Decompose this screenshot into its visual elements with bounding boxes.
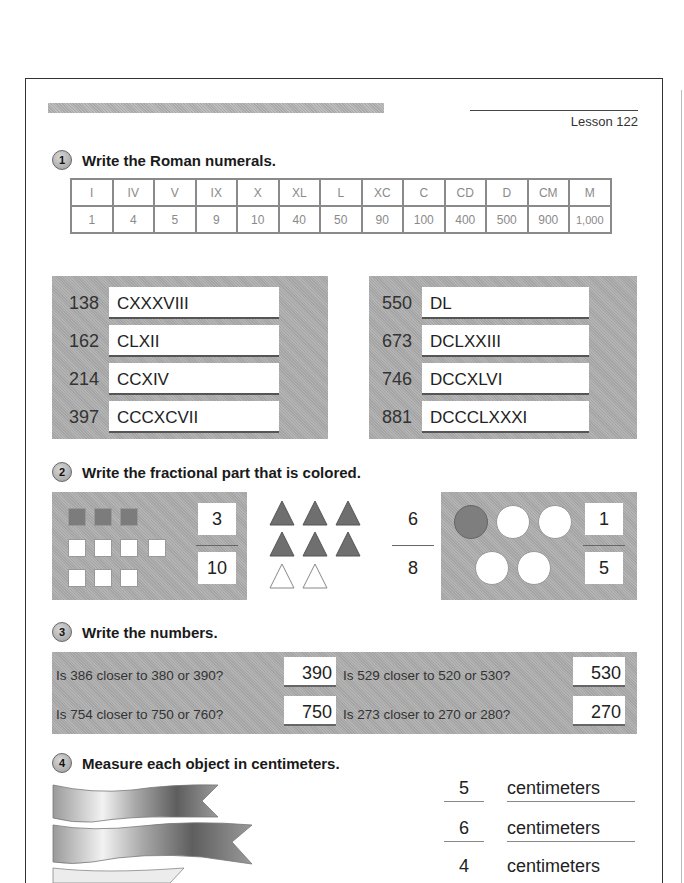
numeral-cell: C bbox=[403, 179, 445, 206]
empty-circle-icon bbox=[496, 505, 530, 539]
unit-label: centimeters bbox=[507, 778, 635, 802]
rounding-question: Is 529 closer to 520 or 530? bbox=[343, 668, 510, 683]
rounding-answer-field[interactable]: 390 bbox=[284, 657, 336, 687]
roman-number: 746 bbox=[370, 369, 422, 390]
roman-row: 214 CCXIV bbox=[57, 363, 279, 395]
filled-triangle-icon bbox=[336, 532, 360, 556]
empty-circle-icon bbox=[538, 505, 572, 539]
roman-answer-field[interactable]: DCLXXIII bbox=[422, 325, 589, 357]
value-cell: 50 bbox=[320, 206, 362, 233]
section-1-title: Write the Roman numerals. bbox=[82, 152, 276, 169]
filled-triangle-icon bbox=[270, 501, 294, 525]
empty-square-icon bbox=[120, 539, 138, 557]
roman-number: 214 bbox=[57, 369, 109, 390]
empty-square-icon bbox=[94, 539, 112, 557]
value-cell: 1,000 bbox=[569, 206, 611, 233]
filled-square-icon bbox=[68, 508, 86, 526]
rounding-answer-field[interactable]: 270 bbox=[573, 696, 625, 726]
title-bar bbox=[48, 103, 384, 113]
numerator-field[interactable]: 1 bbox=[585, 503, 623, 535]
roman-answer-field[interactable]: CCCXCVII bbox=[109, 401, 279, 433]
ribbon-3 bbox=[53, 868, 184, 883]
number-2-icon: 2 bbox=[52, 462, 72, 482]
roman-answer-field[interactable]: DCCXLVI bbox=[422, 363, 589, 395]
roman-row: 162 CLXII bbox=[57, 325, 279, 357]
roman-answer-field[interactable]: CCXIV bbox=[109, 363, 279, 395]
numeral-cell: L bbox=[320, 179, 362, 206]
empty-square-icon bbox=[148, 539, 166, 557]
value-cell: 9 bbox=[196, 206, 238, 233]
measurement-field[interactable]: 6 bbox=[444, 818, 484, 842]
ribbon-2 bbox=[53, 823, 252, 864]
fraction-bar bbox=[196, 545, 238, 546]
roman-row: 881 DCCCLXXXI bbox=[370, 401, 589, 433]
roman-answer-field[interactable]: CLXII bbox=[109, 325, 279, 357]
roman-row: 550 DL bbox=[370, 287, 589, 319]
roman-number: 138 bbox=[57, 293, 109, 314]
section-2-header: 2 Write the fractional part that is colo… bbox=[52, 462, 361, 482]
empty-circle-icon bbox=[475, 551, 509, 585]
numeral-cell: M bbox=[569, 179, 611, 206]
roman-answer-field[interactable]: CXXXVIII bbox=[109, 287, 279, 319]
filled-circle-icon bbox=[454, 505, 488, 539]
roman-answer-field[interactable]: DCCCLXXXI bbox=[422, 401, 589, 433]
filled-triangle-icon bbox=[336, 501, 360, 525]
number-1-icon: 1 bbox=[52, 150, 72, 170]
numerator-field[interactable]: 3 bbox=[198, 503, 236, 535]
roman-row: 397 CCCXCVII bbox=[57, 401, 279, 433]
filled-square-icon bbox=[94, 508, 112, 526]
value-cell: 900 bbox=[528, 206, 570, 233]
empty-square-icon bbox=[120, 569, 138, 587]
name-line bbox=[470, 110, 638, 111]
value-cell: 5 bbox=[154, 206, 196, 233]
denominator-field[interactable]: 8 bbox=[394, 552, 432, 584]
ribbon-1 bbox=[53, 785, 218, 822]
empty-square-icon bbox=[68, 539, 86, 557]
roman-number: 881 bbox=[370, 407, 422, 428]
unit-label: centimeters bbox=[507, 818, 635, 842]
filled-triangle-icon bbox=[303, 532, 327, 556]
numeral-cell: XC bbox=[362, 179, 404, 206]
roman-answer-field[interactable]: DL bbox=[422, 287, 589, 319]
roman-reference-table: I IV V IX X XL L XC C CD D CM M 1 4 5 9 … bbox=[70, 178, 612, 234]
rounding-answer-field[interactable]: 530 bbox=[573, 657, 625, 687]
empty-triangle-icon bbox=[270, 564, 294, 588]
section-2-title: Write the fractional part that is colore… bbox=[82, 464, 361, 481]
lesson-label: Lesson 122 bbox=[571, 114, 638, 129]
fraction-bar bbox=[392, 545, 434, 546]
value-cell: 100 bbox=[403, 206, 445, 233]
numerator-field[interactable]: 6 bbox=[394, 503, 432, 535]
numeral-cell: IX bbox=[196, 179, 238, 206]
value-cell: 90 bbox=[362, 206, 404, 233]
section-1-header: 1 Write the Roman numerals. bbox=[52, 150, 276, 170]
measurement-field[interactable]: 5 bbox=[444, 778, 484, 802]
empty-circle-icon bbox=[517, 551, 551, 585]
fraction-bar bbox=[583, 545, 625, 546]
value-cell: 400 bbox=[445, 206, 487, 233]
measurement-field[interactable]: 4 bbox=[444, 856, 484, 879]
triangles-figure bbox=[268, 498, 368, 598]
roman-row: 673 DCLXXIII bbox=[370, 325, 589, 357]
section-3-title: Write the numbers. bbox=[82, 624, 218, 641]
roman-number: 550 bbox=[370, 293, 422, 314]
rounding-answer-field[interactable]: 750 bbox=[284, 696, 336, 726]
numeral-cell: D bbox=[486, 179, 528, 206]
numeral-cell: XL bbox=[279, 179, 321, 206]
empty-square-icon bbox=[68, 569, 86, 587]
roman-number: 673 bbox=[370, 331, 422, 352]
roman-number: 397 bbox=[57, 407, 109, 428]
section-3-header: 3 Write the numbers. bbox=[52, 622, 218, 642]
value-cell: 4 bbox=[113, 206, 155, 233]
value-row: 1 4 5 9 10 40 50 90 100 400 500 900 1,00… bbox=[71, 206, 611, 233]
number-3-icon: 3 bbox=[52, 622, 72, 642]
value-cell: 500 bbox=[486, 206, 528, 233]
numeral-cell: IV bbox=[113, 179, 155, 206]
filled-square-icon bbox=[120, 508, 138, 526]
empty-square-icon bbox=[94, 569, 112, 587]
roman-row: 746 DCCXLVI bbox=[370, 363, 589, 395]
roman-number: 162 bbox=[57, 331, 109, 352]
denominator-field[interactable]: 5 bbox=[585, 552, 623, 584]
denominator-field[interactable]: 10 bbox=[198, 552, 236, 584]
roman-row: 138 CXXXVIII bbox=[57, 287, 279, 319]
numeral-row: I IV V IX X XL L XC C CD D CM M bbox=[71, 179, 611, 206]
